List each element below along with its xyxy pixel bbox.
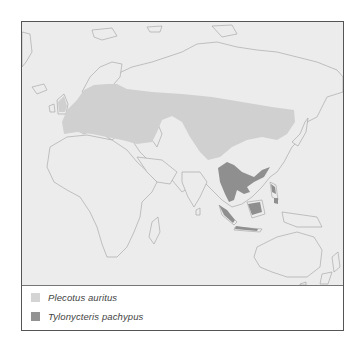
map-legend: Plecotus auritus Tylonycteris pachypus bbox=[22, 286, 343, 330]
coastlines bbox=[22, 25, 343, 285]
distribution-map bbox=[22, 22, 343, 286]
legend-label: Plecotus auritus bbox=[48, 292, 117, 303]
legend-swatch-light bbox=[31, 293, 40, 302]
legend-item-tylonycteris-pachypus: Tylonycteris pachypus bbox=[31, 309, 143, 323]
map-figure: Plecotus auritus Tylonycteris pachypus bbox=[21, 21, 344, 331]
legend-item-plecotus-auritus: Plecotus auritus bbox=[31, 290, 117, 304]
legend-swatch-dark bbox=[31, 312, 40, 321]
world-map-graphic bbox=[22, 22, 343, 285]
legend-label: Tylonycteris pachypus bbox=[48, 311, 143, 322]
